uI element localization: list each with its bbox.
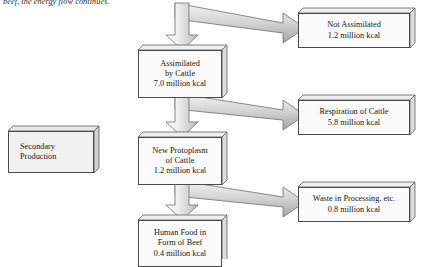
box-new-protoplasm-of-cattle[interactable]: New Protoplasm of Cattle 1.2 million kca… [138, 137, 222, 185]
box-assimilated-by-cattle[interactable]: Assimilated by Cattle 7.0 million kcal [138, 50, 222, 98]
box-value: 7.0 million kcal [141, 79, 219, 89]
flow-arrow-group-top [166, 3, 305, 50]
box-value: 5.8 million kcal [301, 118, 407, 128]
flow-arrow-group-bottom [166, 180, 305, 220]
box-line: by Cattle [141, 69, 219, 79]
box-line: New Protoplasm [141, 146, 219, 156]
flow-arrow-group-middle [166, 93, 305, 137]
box-line: Secondary [20, 142, 91, 152]
box-line: Human Food in [141, 228, 219, 238]
box-line: of Cattle [141, 156, 219, 166]
box-human-food-form-of-beef[interactable]: Human Food in Form of Beef 0.4 million k… [138, 220, 222, 267]
box-value: 0.8 million kcal [301, 205, 407, 215]
box-line: Form of Beef [141, 238, 219, 248]
box-value: 1.2 million kcal [301, 31, 407, 41]
box-secondary-production[interactable]: Secondary Production [8, 131, 94, 173]
box-respiration-of-cattle[interactable]: Respiration of Cattle 5.8 million kcal [298, 100, 410, 135]
box-line: Waste in Processing, etc. [301, 194, 407, 204]
box-line: Production [20, 152, 91, 162]
box-line: Respiration of Cattle [301, 107, 407, 117]
flow-to-waste-arrow [175, 180, 305, 217]
box-line: Assimilated [141, 59, 219, 69]
box-line: Not Assimilated [301, 20, 407, 30]
box-not-assimilated[interactable]: Not Assimilated 1.2 million kcal [298, 13, 410, 48]
box-waste-in-processing[interactable]: Waste in Processing, etc. 0.8 million kc… [298, 187, 410, 222]
box-value: 1.2 million kcal [141, 166, 219, 176]
box-value: 0.4 million kcal [141, 249, 219, 259]
